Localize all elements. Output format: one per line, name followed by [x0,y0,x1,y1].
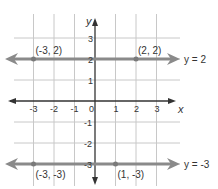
x-axis-right-arrow-icon [168,98,176,104]
y-axis-up-arrow-icon [92,18,98,26]
equation-label: y = 2 [184,54,206,65]
labels: xy-3-2-10123321-1-2-3y = 2(-3, 2)(2, 2)y… [30,15,210,180]
y-tick-label: -3 [84,160,92,170]
data-point [31,57,36,62]
point-label: (-3, 2) [36,45,63,56]
x-axis-left-arrow-icon [8,98,16,104]
data-point [113,162,118,167]
x-axis-label: x [177,103,184,115]
y-axis-down-arrow-icon [92,177,98,185]
y-axis-label: y [85,15,93,27]
x-tick-label: -1 [71,104,79,114]
y-tick-label: -1 [84,118,92,128]
equation-label: y = -3 [184,159,210,170]
x-tick-label: -3 [30,104,38,114]
point-label: (-3, -3) [36,169,66,180]
y-tick-label: 1 [88,76,93,86]
x-tick-label: 2 [134,104,139,114]
y-tick-label: -2 [84,139,92,149]
point-label: (2, 2) [138,45,161,56]
x-tick-label: 0 [89,104,94,114]
x-tick-label: -2 [50,104,58,114]
coordinate-plane: xy-3-2-10123321-1-2-3y = 2(-3, 2)(2, 2)y… [0,0,218,189]
data-point [31,162,36,167]
y-tick-label: 2 [88,55,93,65]
grid-lines [14,14,180,186]
data-point [134,57,139,62]
y-tick-label: 3 [88,34,93,44]
point-label: (1, -3) [118,169,145,180]
x-tick-label: 3 [155,104,160,114]
x-tick-label: 1 [114,104,119,114]
